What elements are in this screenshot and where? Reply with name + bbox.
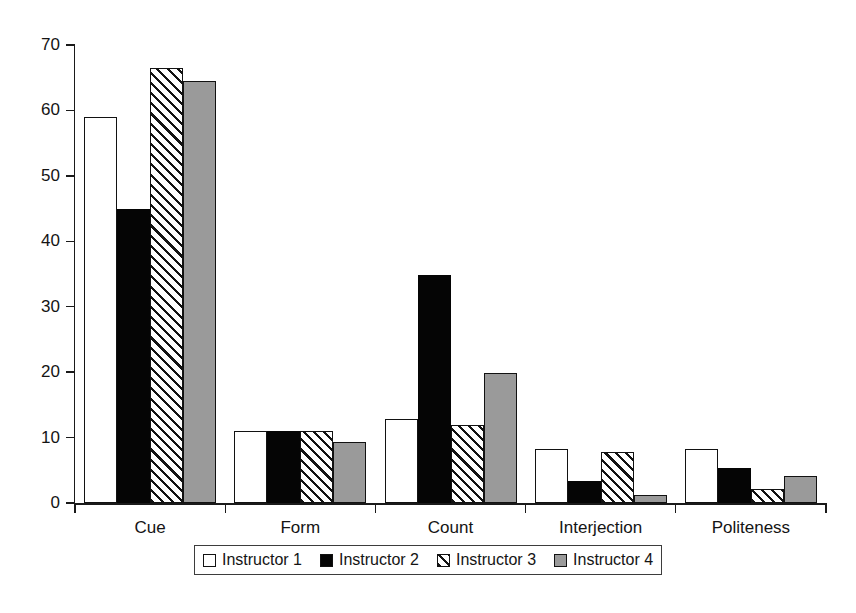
y-axis-tick-label: 60: [20, 101, 60, 118]
bar: [117, 209, 150, 503]
y-axis-tick-label: 50: [20, 167, 60, 184]
x-axis-tick: [74, 503, 75, 513]
bar-group: [535, 45, 667, 503]
y-axis-tick: [66, 241, 75, 242]
bar: [718, 468, 751, 503]
x-axis-tick: [675, 503, 676, 513]
bar: [385, 419, 418, 503]
x-axis-tick: [225, 503, 226, 513]
legend-item[interactable]: Instructor 1: [203, 552, 302, 568]
bar: [300, 431, 333, 503]
legend: Instructor 1Instructor 2Instructor 3Inst…: [194, 545, 662, 575]
y-axis-tick: [66, 44, 75, 45]
bar: [484, 373, 517, 503]
y-axis-tick-label: 40: [20, 232, 60, 249]
x-axis-category-label: Cue: [75, 518, 225, 537]
y-axis-tick-label: 0: [20, 494, 60, 511]
bar: [183, 81, 216, 503]
bar-group: [385, 45, 517, 503]
legend-item-label: Instructor 1: [222, 552, 302, 568]
y-axis-tick: [66, 306, 75, 307]
x-axis-category-label: Form: [225, 518, 375, 537]
y-axis-tick: [66, 437, 75, 438]
bar: [634, 495, 667, 503]
caption-strip: [0, 596, 856, 613]
bar: [535, 449, 568, 503]
bar: [751, 489, 784, 503]
x-axis-tick: [375, 503, 376, 513]
legend-item[interactable]: Instructor 4: [554, 552, 653, 568]
bar: [150, 68, 183, 503]
legend-item[interactable]: Instructor 3: [437, 552, 536, 568]
y-axis-tick: [66, 110, 75, 111]
legend-swatch-icon: [203, 554, 216, 567]
bar-group: [685, 45, 817, 503]
legend-swatch-icon: [320, 554, 333, 567]
x-axis-tick: [825, 503, 826, 513]
bar: [418, 275, 451, 503]
x-axis-line: [74, 503, 826, 505]
plot-area: [75, 45, 825, 503]
bar-group: [84, 45, 216, 503]
y-axis-tick-label: 30: [20, 298, 60, 315]
bar: [784, 476, 817, 503]
x-axis-tick: [525, 503, 526, 513]
legend-item-label: Instructor 3: [456, 552, 536, 568]
y-axis-tick: [66, 371, 75, 372]
bar: [601, 452, 634, 503]
y-axis-tick-label: 10: [20, 429, 60, 446]
bar-chart-figure: 010203040506070 CueFormCountInterjection…: [0, 0, 856, 613]
bar: [234, 431, 267, 503]
bar: [333, 442, 366, 504]
legend-item-label: Instructor 4: [573, 552, 653, 568]
y-axis-tick: [66, 175, 75, 176]
bar-group: [234, 45, 366, 503]
y-axis-tick-label: 70: [20, 36, 60, 53]
bar: [685, 449, 718, 503]
legend-item-label: Instructor 2: [339, 552, 419, 568]
x-axis-category-label: Interjection: [526, 518, 676, 537]
legend-swatch-icon: [437, 554, 450, 567]
bar: [84, 117, 117, 503]
y-axis-tick-labels: 010203040506070: [16, 0, 60, 613]
bar: [451, 425, 484, 503]
x-axis-category-label: Politeness: [676, 518, 826, 537]
bar: [267, 431, 300, 503]
bar: [568, 481, 601, 503]
legend-swatch-icon: [554, 554, 567, 567]
x-axis-category-label: Count: [376, 518, 526, 537]
legend-item[interactable]: Instructor 2: [320, 552, 419, 568]
y-axis-tick-label: 20: [20, 363, 60, 380]
